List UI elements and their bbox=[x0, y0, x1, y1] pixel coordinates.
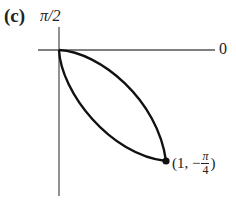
point-label-open: (1, − bbox=[172, 156, 200, 171]
endpoint-dot bbox=[162, 157, 169, 164]
horizontal-axis-label: 0 bbox=[219, 41, 227, 57]
lower-arc bbox=[59, 50, 166, 161]
vertical-axis-label: π/2 bbox=[40, 8, 60, 24]
fraction-numerator: π bbox=[201, 150, 209, 164]
polar-plot-figure: (c) π/2 0 (1, − π 4 ) bbox=[0, 0, 236, 201]
point-label: (1, − π 4 ) bbox=[172, 150, 215, 176]
fraction-denominator: 4 bbox=[202, 164, 208, 177]
point-label-close: ) bbox=[210, 156, 215, 171]
upper-arc bbox=[59, 50, 166, 161]
panel-label: (c) bbox=[4, 6, 25, 25]
point-label-fraction: π 4 bbox=[201, 150, 209, 176]
